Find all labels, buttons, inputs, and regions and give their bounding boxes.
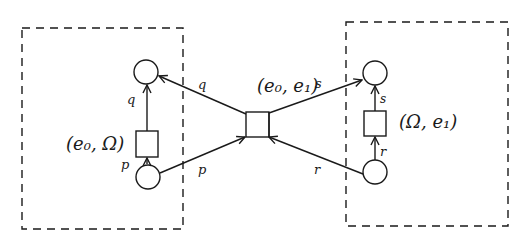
- arc-label-center-in-left: p: [198, 162, 207, 177]
- arc-label-left-in: p: [121, 157, 130, 172]
- left-transition-label: (e₀, Ω): [66, 133, 124, 154]
- left-component-box: [22, 28, 183, 229]
- left-input-place: [136, 165, 160, 189]
- arc-label-left-out: q: [127, 92, 135, 107]
- arc-label-center-in-right: r: [314, 162, 321, 177]
- arc-label-center-out-left: q: [198, 77, 206, 92]
- petri-net-diagram: (e₀, Ω) (e₀, e₁) (Ω, e₁) p q p q s r r s: [0, 0, 527, 242]
- right-input-place: [363, 160, 387, 184]
- right-transition-label: (Ω, e₁): [399, 111, 457, 132]
- center-transition: [246, 112, 269, 137]
- right-output-place: [363, 61, 387, 85]
- right-transition: [364, 111, 386, 136]
- left-output-place: [134, 60, 158, 84]
- arc-label-right-out: s: [380, 92, 386, 106]
- left-transition: [136, 131, 158, 157]
- center-transition-label: (e₀, e₁): [257, 75, 318, 96]
- arc-label-right-in: r: [380, 144, 387, 159]
- arc-label-center-out-right: s: [315, 76, 322, 91]
